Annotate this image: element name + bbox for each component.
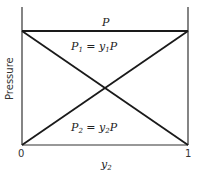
p2-label: P2 = y2P [70,121,118,135]
x-tick-0: 0 [18,148,24,159]
x-tick-1: 1 [185,148,191,159]
p1-label: P1 = y1P [70,40,118,54]
pressure-diagram: P P1 = y1P P2 = y2P 0 1 y2 Pressure [0,0,197,174]
x-axis-label: y2 [100,158,112,172]
total-pressure-label: P [101,16,110,29]
y-axis-label: Pressure [4,57,15,100]
